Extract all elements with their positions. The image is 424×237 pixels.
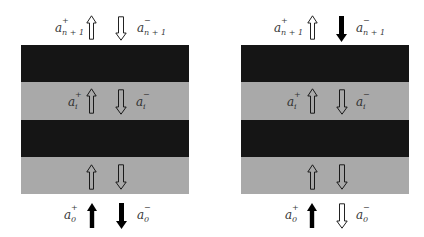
superscript: −	[363, 204, 370, 212]
superscript: −	[144, 204, 151, 212]
superscript: +	[62, 17, 69, 25]
arrow-up-outline-icon	[307, 88, 318, 114]
subscript: n + 1	[363, 29, 385, 37]
arrow-up-outline-icon	[86, 88, 97, 114]
superscript: −	[363, 17, 370, 25]
label-a-plus-n1: a + n + 1	[274, 22, 281, 34]
subscript: i	[75, 103, 78, 111]
layer-2-light	[241, 82, 409, 120]
layer-1-dark	[21, 45, 189, 82]
superscript: +	[294, 91, 301, 99]
label-a-plus-0: a + 0	[64, 209, 71, 221]
label-a-minus-i: a − i	[356, 96, 363, 108]
arrow-down-outline-icon	[336, 203, 348, 229]
subscript: 0	[363, 216, 368, 224]
arrow-up-outline-icon	[307, 15, 318, 40]
label-a-plus-0: a + 0	[285, 209, 292, 221]
superscript: −	[143, 91, 150, 99]
left-stack-diagram: a + n + 1 a − n + 1 a + i a − i a + 0 a …	[0, 0, 212, 237]
layer-3-dark	[21, 120, 189, 157]
label-a-minus-0: a − 0	[356, 209, 363, 221]
label-a-plus-n1: a + n + 1	[55, 22, 62, 34]
arrow-up-filled-icon	[307, 203, 317, 228]
arrow-up-outline-icon	[86, 15, 97, 40]
superscript: +	[292, 204, 299, 212]
subscript: i	[363, 103, 366, 111]
arrow-down-outline-icon	[115, 164, 127, 190]
label-a-minus-i: a − i	[136, 96, 143, 108]
subscript: 0	[144, 216, 149, 224]
layer-3-dark	[241, 120, 409, 157]
arrow-down-outline-icon	[336, 164, 348, 190]
subscript: i	[143, 103, 146, 111]
arrow-up-filled-icon	[87, 203, 97, 228]
layer-4-light	[241, 157, 409, 194]
layer-4-light	[21, 157, 189, 194]
superscript: +	[71, 204, 78, 212]
label-a-minus-0: a − 0	[137, 209, 144, 221]
arrow-up-outline-icon	[86, 164, 97, 190]
subscript: 0	[71, 216, 76, 224]
arrow-down-filled-icon	[336, 16, 347, 42]
arrow-down-outline-icon	[115, 89, 127, 115]
subscript: n + 1	[144, 29, 166, 37]
arrow-down-outline-icon	[115, 16, 127, 41]
layer-1-dark	[241, 45, 409, 82]
arrow-up-outline-icon	[307, 164, 318, 190]
label-a-minus-n1: a − n + 1	[356, 22, 363, 34]
superscript: −	[144, 17, 151, 25]
layer-2-light	[21, 82, 189, 120]
superscript: +	[281, 17, 288, 25]
subscript: n + 1	[62, 29, 84, 37]
arrow-down-outline-icon	[336, 89, 348, 115]
label-a-plus-i: a + i	[68, 96, 75, 108]
superscript: −	[363, 91, 370, 99]
subscript: i	[294, 103, 297, 111]
arrow-down-filled-icon	[116, 203, 127, 229]
right-stack-diagram: a + n + 1 a − n + 1 a + i a − i a + 0 a …	[212, 0, 424, 237]
subscript: n + 1	[281, 29, 303, 37]
label-a-minus-n1: a − n + 1	[137, 22, 144, 34]
superscript: +	[75, 91, 82, 99]
label-a-plus-i: a + i	[287, 96, 294, 108]
subscript: 0	[292, 216, 297, 224]
